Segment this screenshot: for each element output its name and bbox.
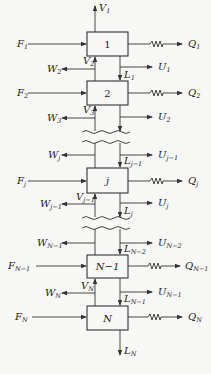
feed-label: FN	[14, 311, 28, 324]
sidedraw-w-label: W3	[47, 112, 61, 125]
stage-label: N	[102, 313, 113, 324]
vapor-label: V3	[83, 104, 94, 117]
heat-label: Q1	[188, 38, 200, 51]
sidedraw-u-label: UN−2	[158, 237, 182, 250]
sidedraw-u-label: U2	[158, 111, 171, 124]
heat-arrow	[128, 263, 180, 269]
sidedraw-u-label: UN−1	[158, 286, 182, 299]
liquid-label: L1	[123, 69, 135, 82]
feed-label: F1	[16, 38, 28, 51]
stage-1: 1	[87, 32, 128, 56]
vapor-label: V1	[99, 2, 110, 15]
feed-label: F2	[16, 87, 28, 100]
sidedraw-w-label: WN	[45, 287, 61, 300]
heat-arrow	[128, 41, 182, 47]
heat-arrow	[128, 178, 182, 184]
vapor-label: VN	[81, 280, 94, 293]
heat-label: Q2	[188, 87, 200, 100]
stage-n-1: N−1	[87, 255, 128, 278]
break-wave	[82, 131, 130, 134]
heat-arrow	[128, 90, 182, 96]
stage-label: N−1	[95, 261, 120, 272]
heat-label: QN−1	[185, 260, 208, 273]
stage-label: 2	[104, 88, 110, 99]
feed-label: FN−1	[7, 260, 30, 273]
liquid-label: LN−2	[123, 243, 146, 256]
column-diagram: 1 2 j N−1 N	[0, 0, 211, 374]
liquid-label: Lj	[123, 205, 133, 218]
liquid-label: LN	[123, 345, 137, 358]
sidedraw-u-label: U1	[158, 61, 171, 74]
liquid-label: Lj−1	[123, 155, 142, 168]
feed-label: Fj	[16, 175, 26, 188]
stage-2: 2	[87, 81, 128, 105]
heat-streams	[128, 41, 182, 320]
liquid-label: LN−1	[123, 293, 146, 306]
sidedraw-w-label: Wj−1	[40, 198, 62, 211]
break-wave	[82, 141, 130, 144]
heat-arrow	[128, 314, 182, 320]
sidedraw-w-label: WN−1	[37, 237, 63, 250]
stage-label: 1	[104, 39, 110, 50]
feed-streams	[28, 44, 86, 317]
stage-n: N	[87, 306, 128, 330]
stage-j: j	[87, 168, 128, 193]
sidedraw-u-label: Uj	[158, 197, 168, 210]
heat-label: Qj	[188, 175, 198, 188]
heat-label: QN	[188, 311, 202, 324]
break-wave	[82, 217, 130, 220]
sidedraw-w-label: Wj	[48, 149, 60, 162]
break-wave	[82, 227, 130, 230]
vapor-label: V2	[83, 55, 94, 68]
sidedraw-u-label: Uj−1	[158, 149, 178, 162]
sidedraw-w-label: W2	[47, 63, 61, 76]
